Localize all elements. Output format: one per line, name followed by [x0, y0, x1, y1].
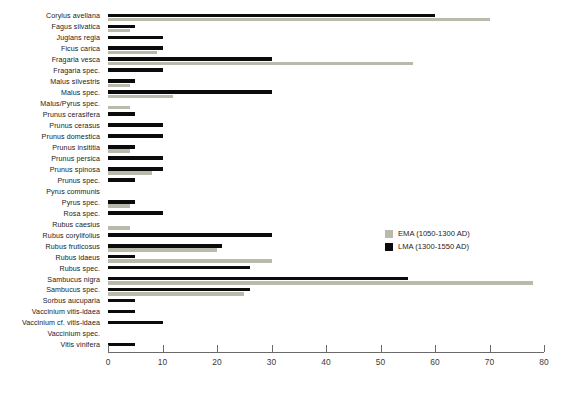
bar-group	[108, 145, 544, 156]
bar-group	[108, 211, 544, 222]
x-axis-tick	[381, 345, 382, 352]
bar-lma	[108, 255, 135, 259]
bar-lma	[108, 200, 135, 204]
category-label: Corylus avellana	[0, 13, 100, 20]
x-axis-tick	[217, 345, 218, 352]
category-label: Vaccinium cf. vitis-idaea	[0, 320, 100, 327]
x-axis-tick-label: 40	[321, 357, 330, 367]
category-label: Pyrus communis	[0, 189, 100, 196]
bar-ema	[108, 248, 217, 252]
category-label: Prunus cerasus	[0, 123, 100, 130]
bar-group	[108, 265, 544, 276]
x-axis-tick	[108, 345, 109, 352]
bar-group	[108, 79, 544, 90]
bar-ema	[108, 292, 244, 296]
bar-ema	[108, 281, 533, 285]
category-label: Prunus spinosa	[0, 167, 100, 174]
category-label: Fragaria spec.	[0, 68, 100, 75]
category-label: Prunus spec.	[0, 178, 100, 185]
bar-group	[108, 233, 544, 244]
bar-lma	[108, 178, 135, 182]
bar-ema	[108, 259, 272, 263]
bar-lma	[108, 90, 272, 94]
x-axis-tick-label: 50	[376, 357, 385, 367]
category-label: Juglans regia	[0, 35, 100, 42]
bar-lma	[108, 211, 163, 215]
category-label: Fragaria vesca	[0, 57, 100, 64]
category-label: Prunus persica	[0, 156, 100, 163]
x-axis-tick	[272, 345, 273, 352]
legend-item[interactable]: LMA (1300-1550 AD)	[385, 241, 470, 252]
legend-item[interactable]: EMA (1050-1300 AD)	[385, 228, 470, 239]
bar-ema	[108, 171, 152, 175]
bar-group	[108, 35, 544, 46]
category-label: Rubus fruticosus	[0, 244, 100, 251]
category-label: Fagus silvatica	[0, 24, 100, 31]
legend-swatch-ema	[385, 230, 393, 238]
x-axis-tick-label: 60	[430, 357, 439, 367]
x-axis-tick-label: 30	[267, 357, 276, 367]
bar-group	[108, 13, 544, 24]
category-label: Vitis vinifera	[0, 342, 100, 349]
bar-lma	[108, 68, 163, 72]
category-label: Sambucus spec.	[0, 287, 100, 294]
category-label: Sambucus nigra	[0, 277, 100, 284]
bar-group	[108, 101, 544, 112]
bar-group	[108, 287, 544, 298]
bar-ema	[108, 149, 130, 153]
bar-group	[108, 46, 544, 57]
bar-group	[108, 123, 544, 134]
x-axis-tick	[326, 345, 327, 352]
x-axis-tick-label: 10	[158, 357, 167, 367]
category-label: Prunus insititia	[0, 145, 100, 152]
bar-lma	[108, 277, 408, 281]
category-label: Rubus corylifolius	[0, 233, 100, 240]
bar-ema	[108, 84, 130, 88]
bar-group	[108, 167, 544, 178]
bar-ema	[108, 95, 173, 99]
legend-swatch-lma	[385, 243, 393, 251]
bar-chart: Corylus avellanaFagus silvaticaJuglans r…	[0, 0, 564, 400]
category-label: Rubus caesius	[0, 222, 100, 229]
bar-group	[108, 24, 544, 35]
category-label: Vaccinium vitis-idaea	[0, 309, 100, 316]
category-label: Malus spec.	[0, 90, 100, 97]
category-label: Vaccinium spec.	[0, 331, 100, 338]
bar-lma	[108, 14, 435, 18]
category-label: Prunus cerasifera	[0, 112, 100, 119]
bar-group	[108, 320, 544, 331]
bar-ema	[108, 106, 130, 110]
bar-group	[108, 222, 544, 233]
bar-lma	[108, 156, 163, 160]
category-label: Rosa spec.	[0, 211, 100, 218]
bar-group	[108, 244, 544, 255]
x-axis-tick	[544, 345, 545, 352]
category-label: Rubus idaeus	[0, 255, 100, 262]
bar-lma	[108, 46, 163, 50]
bar-lma	[108, 288, 250, 292]
bar-ema	[108, 62, 413, 66]
category-label: Prunus domestica	[0, 134, 100, 141]
bar-group	[108, 298, 544, 309]
x-axis-tick-label: 0	[106, 357, 111, 367]
bar-lma	[108, 25, 135, 29]
category-label: Malus silvestris	[0, 79, 100, 86]
category-label: Sorbus aucuparia	[0, 298, 100, 305]
bar-lma	[108, 343, 135, 347]
bar-lma	[108, 123, 163, 127]
x-axis-tick	[163, 345, 164, 352]
bar-lma	[108, 310, 135, 314]
category-axis-labels: Corylus avellanaFagus silvaticaJuglans r…	[0, 12, 104, 352]
bar-group	[108, 68, 544, 79]
legend-label: EMA (1050-1300 AD)	[398, 229, 470, 238]
bar-group	[108, 178, 544, 189]
bar-lma	[108, 233, 272, 237]
bar-group	[108, 331, 544, 342]
bar-lma	[108, 57, 272, 61]
bar-lma	[108, 112, 135, 116]
x-axis-line	[108, 352, 544, 353]
bar-lma	[108, 134, 163, 138]
plot-area	[108, 12, 544, 352]
category-label: Ficus carica	[0, 46, 100, 53]
bar-lma	[108, 321, 163, 325]
